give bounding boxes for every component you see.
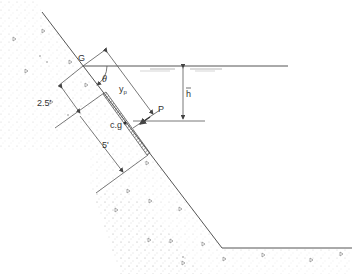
cg-point [124,122,127,125]
label-G: G [78,53,85,63]
water-surface [83,66,288,71]
label-P: P [158,104,164,114]
gate-diagram: G θ yp P h c.g 2.5' 5' [0,0,364,274]
label-5ft: 5' [102,140,109,150]
force-arrow [140,117,150,124]
label-theta: θ [102,73,107,84]
label-2-5ft: 2.5' [37,98,52,108]
label-cg: c.g [110,120,122,130]
label-hbar: h [186,89,191,99]
soil-region [0,0,352,274]
label-yp: yp [119,84,128,95]
